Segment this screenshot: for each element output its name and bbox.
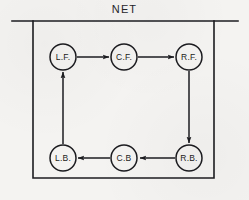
node-label-lb: L.B. — [55, 153, 71, 163]
node-label-rf: R.F. — [181, 52, 197, 62]
node-label-lf: L.F. — [56, 52, 71, 62]
diagram-graphics — [0, 0, 249, 200]
node-label-rb: R.B. — [180, 153, 197, 163]
node-label-cf: C.F. — [116, 52, 132, 62]
node-label-cb: C.B — [117, 153, 132, 163]
figure-canvas: NET L.F. C.F. R.F. L.B. C.B R.B. — [0, 0, 249, 200]
